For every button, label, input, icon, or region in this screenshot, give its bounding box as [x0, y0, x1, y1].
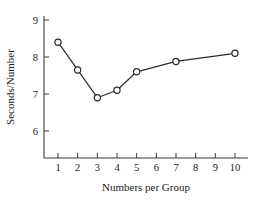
- x-tick-label: 9: [213, 162, 218, 173]
- x-tick-label: 6: [154, 162, 159, 173]
- data-point-marker: [75, 67, 81, 73]
- data-point-marker: [173, 58, 179, 64]
- x-tick-label: 1: [55, 162, 60, 173]
- x-tick-label: 3: [95, 162, 100, 173]
- data-point-marker: [134, 69, 140, 75]
- x-tick-label: 5: [134, 162, 139, 173]
- series-line: [58, 42, 235, 97]
- y-tick-label: 6: [33, 126, 38, 137]
- y-tick-label: 8: [33, 52, 38, 63]
- data-point-marker: [114, 87, 120, 93]
- y-tick-label: 7: [33, 89, 38, 100]
- x-axis-title: Numbers per Group: [102, 181, 190, 193]
- x-tick-label: 7: [173, 162, 178, 173]
- x-tick-label: 4: [114, 162, 120, 173]
- y-axis-title: Seconds/Number: [4, 49, 16, 125]
- data-point-marker: [94, 95, 100, 101]
- line-chart-figure: 678912345678910Numbers per GroupSeconds/…: [0, 0, 255, 207]
- x-tick-label: 10: [230, 162, 241, 173]
- y-tick-label: 9: [33, 15, 38, 26]
- chart-canvas: 678912345678910Numbers per GroupSeconds/…: [0, 0, 255, 207]
- x-tick-label: 8: [193, 162, 198, 173]
- data-point-marker: [232, 50, 238, 56]
- x-tick-label: 2: [75, 162, 80, 173]
- data-point-marker: [55, 39, 61, 45]
